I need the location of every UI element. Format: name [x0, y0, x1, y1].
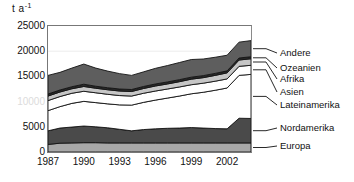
x-tick-label-1996: 1996 [144, 156, 166, 167]
legend-leader-andere [253, 49, 277, 53]
x-tick-label-1990: 1990 [73, 156, 95, 167]
stacked-area-chart-figure: t a-1 0500010000150002000025000 19871990… [0, 0, 354, 182]
plot-svg [48, 26, 251, 152]
legend-item-label: Europa [280, 140, 311, 151]
x-tick-label-1987: 1987 [37, 156, 59, 167]
legend-item-label: Nordamerika [280, 122, 334, 133]
legend-item-label: Andere [280, 47, 311, 58]
legend-item-andere[interactable]: Andere [280, 48, 311, 58]
legend-item-europa[interactable]: Europa [280, 141, 311, 151]
legend-item-nordamerika[interactable]: Nordamerika [280, 123, 334, 133]
chart-legend: AndereOzeanienAfrikaAsienLateinamerikaNo… [252, 0, 354, 182]
legend-item-ozeanien[interactable]: Ozeanien [280, 63, 321, 73]
y-tick-label-15000: 15000 [1, 71, 45, 81]
x-tick-label-1993: 1993 [109, 156, 131, 167]
legend-item-lateinamerika[interactable]: Lateinamerika [280, 100, 340, 110]
legend-item-label: Lateinamerika [280, 99, 340, 110]
legend-leader-ozeanien [253, 58, 277, 68]
plot-area [47, 25, 252, 153]
x-tick-label-2002: 2002 [216, 156, 238, 167]
y-axis: 0500010000150002000025000 [0, 0, 45, 182]
legend-leader-lateinamerika [253, 96, 277, 105]
area-series-europa [48, 143, 251, 152]
legend-leader-europa [253, 146, 277, 148]
y-tick-label-25000: 25000 [1, 21, 45, 31]
legend-item-asien[interactable]: Asien [280, 87, 304, 97]
x-tick-label-1999: 1999 [180, 156, 202, 167]
legend-item-afrika[interactable]: Afrika [280, 74, 304, 84]
legend-item-label: Ozeanien [280, 62, 321, 73]
y-tick-label-20000: 20000 [1, 46, 45, 56]
y-tick-label-10000: 10000 [1, 97, 45, 107]
y-tick-label-5000: 5000 [1, 122, 45, 132]
legend-leader-nordamerika [253, 128, 277, 131]
legend-item-label: Afrika [280, 73, 304, 84]
legend-item-label: Asien [280, 86, 304, 97]
